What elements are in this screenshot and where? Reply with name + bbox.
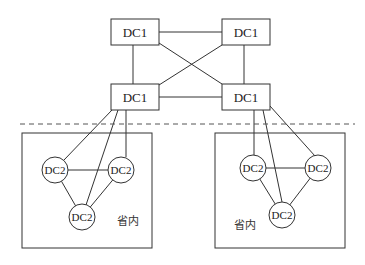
svg-text:DC2: DC2 [111, 164, 132, 176]
uplinks-right [254, 106, 315, 202]
dc1-node: DC1 [222, 84, 270, 110]
link-cross-1 [159, 43, 222, 84]
svg-text:DC2: DC2 [272, 209, 293, 221]
svg-text:DC2: DC2 [308, 162, 329, 174]
svg-text:DC2: DC2 [243, 162, 264, 174]
region-label: 省内 [234, 218, 256, 232]
dc2-node: DC2 [108, 157, 134, 183]
dc2-node: DC2 [42, 157, 68, 183]
svg-text:DC1: DC1 [234, 90, 259, 105]
link-cross-2 [159, 45, 222, 85]
svg-text:DC1: DC1 [123, 25, 148, 40]
dc2-node: DC2 [240, 155, 266, 181]
dc1-node: DC1 [222, 19, 270, 45]
dc2-node: DC2 [69, 204, 95, 230]
svg-text:DC2: DC2 [72, 211, 93, 223]
dc1-node: DC1 [111, 19, 159, 45]
svg-text:DC1: DC1 [123, 90, 148, 105]
svg-text:DC2: DC2 [45, 164, 66, 176]
svg-text:DC1: DC1 [234, 25, 259, 40]
dc2-node: DC2 [305, 155, 331, 181]
region-label: 省内 [117, 214, 139, 228]
region-box-left [22, 133, 152, 248]
dc2-node: DC2 [269, 202, 295, 228]
topology-diagram: DC1 DC1 DC1 DC1 DC2 DC2 DC2 省内 DC2 DC2 D… [0, 0, 365, 265]
dc1-node: DC1 [111, 84, 159, 110]
